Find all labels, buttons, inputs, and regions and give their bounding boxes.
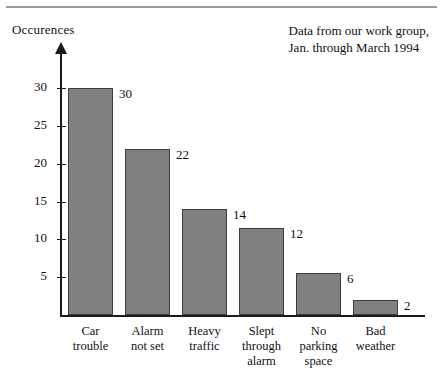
bar-value-label: 14 [233,207,246,223]
y-tick-label: 10 [17,230,47,246]
y-tick-label: 5 [17,268,47,284]
y-tick-label: 20 [17,155,47,171]
bar [296,273,341,315]
y-tick-mark [57,239,66,240]
y-tick-mark [57,164,66,165]
category-label-line: space [279,354,359,369]
y-tick-mark [57,88,66,89]
x-axis-line [60,315,425,317]
plot-area: 51015202530 3022141262 CartroubleAlarmno… [0,0,443,385]
bar-value-label: 30 [119,86,132,102]
y-tick-label: 25 [17,117,47,133]
y-tick-label: 15 [17,193,47,209]
category-label: Badweather [336,324,416,354]
bar [125,149,170,315]
y-tick-label: 30 [17,79,47,95]
category-label-line: Bad [336,324,416,339]
y-tick-mark [57,126,66,127]
bar [68,88,113,315]
bar-value-label: 2 [404,298,411,314]
bar-value-label: 12 [290,226,303,242]
bar-value-label: 22 [176,147,189,163]
bar [239,228,284,315]
y-tick-mark [57,277,66,278]
bar [182,209,227,315]
chart-figure: Occurences Data from our work group, Jan… [0,0,443,385]
bar-value-label: 6 [347,271,354,287]
y-tick-mark [57,202,66,203]
category-label-line: weather [336,339,416,354]
bar [353,300,398,315]
